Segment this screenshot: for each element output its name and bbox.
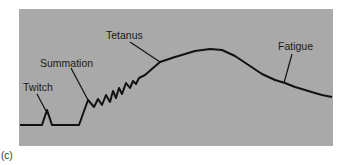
twitch-label: Twitch (23, 81, 53, 93)
summation-leader (71, 68, 88, 100)
tetanus-label: Tetanus (106, 29, 143, 41)
twitch-leader (37, 94, 46, 111)
summation-label: Summation (40, 57, 93, 69)
panel-label: (c) (1, 150, 13, 161)
fatigue-leader (284, 54, 292, 83)
fatigue-label: Fatigue (278, 40, 313, 52)
tetanus-leader (130, 42, 160, 62)
